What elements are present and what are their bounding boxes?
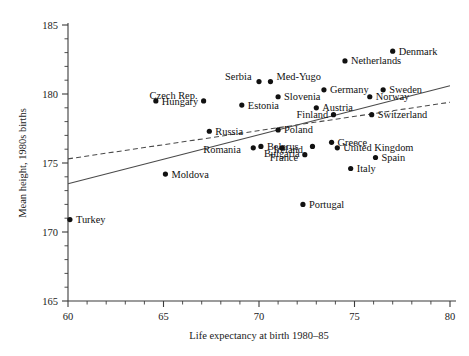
- data-point-label: Switzerland: [378, 109, 428, 120]
- data-point-label: France: [270, 152, 299, 163]
- x-tick-label: 75: [349, 311, 360, 322]
- x-tick-label: 80: [445, 311, 456, 322]
- data-point-marker[interactable]: [300, 202, 305, 207]
- data-point-label: Turkey: [76, 214, 106, 225]
- data-point-label: Netherlands: [351, 55, 401, 66]
- data-point-marker[interactable]: [342, 58, 347, 63]
- data-point-marker[interactable]: [251, 145, 256, 150]
- y-tick-label: 180: [42, 89, 58, 100]
- x-axis-title: Life expectancy at birth 1980–85: [189, 330, 328, 341]
- scatter-chart-figure: 1651701751801856065707580Life expectancy…: [0, 0, 469, 356]
- data-point-marker[interactable]: [369, 112, 374, 117]
- y-tick-label: 170: [42, 227, 58, 238]
- data-point-label: Serbia: [225, 71, 252, 82]
- data-point-label: Norway: [376, 91, 410, 102]
- data-point-marker[interactable]: [348, 166, 353, 171]
- data-point-marker[interactable]: [302, 152, 307, 157]
- y-tick-label: 165: [42, 296, 58, 307]
- data-point-label: Germany: [330, 84, 369, 95]
- data-point-marker[interactable]: [373, 155, 378, 160]
- data-point-marker[interactable]: [331, 112, 336, 117]
- data-point-label: Russia: [215, 126, 243, 137]
- plot-area: 1651701751801856065707580Life expectancy…: [0, 0, 469, 356]
- data-point-label: Spain: [382, 152, 406, 163]
- data-point-marker[interactable]: [367, 94, 372, 99]
- y-tick-label: 185: [42, 20, 58, 31]
- data-point-marker[interactable]: [276, 127, 281, 132]
- data-point-marker[interactable]: [239, 102, 244, 107]
- data-point-label: Czech Rep.: [150, 90, 198, 101]
- x-tick-label: 70: [254, 311, 265, 322]
- data-point-marker[interactable]: [268, 79, 273, 84]
- data-point-label: Med-Yugo: [276, 71, 320, 82]
- data-point-marker[interactable]: [329, 140, 334, 145]
- data-point-label: Denmark: [399, 46, 438, 57]
- data-point-marker[interactable]: [67, 217, 72, 222]
- data-point-marker[interactable]: [207, 129, 212, 134]
- data-point-marker[interactable]: [258, 144, 263, 149]
- data-point-label: Moldova: [171, 169, 209, 180]
- data-point-marker[interactable]: [310, 144, 315, 149]
- data-point-label: Finland: [296, 109, 329, 120]
- y-axis-title: Mean height, 1980s births: [17, 108, 28, 218]
- data-point-marker[interactable]: [256, 79, 261, 84]
- data-point-label: Slovenia: [284, 91, 321, 102]
- data-point-marker[interactable]: [163, 171, 168, 176]
- x-tick-label: 60: [63, 311, 74, 322]
- data-point-marker[interactable]: [335, 145, 340, 150]
- x-tick-label: 65: [158, 311, 169, 322]
- data-point-label: Poland: [284, 124, 314, 135]
- data-point-marker[interactable]: [276, 94, 281, 99]
- data-point-marker[interactable]: [201, 98, 206, 103]
- y-tick-label: 175: [42, 158, 58, 169]
- data-point-label: Romania: [203, 144, 241, 155]
- data-point-label: Estonia: [248, 100, 280, 111]
- data-point-label: Italy: [357, 163, 377, 174]
- data-point-label: Portugal: [309, 199, 344, 210]
- data-point-marker[interactable]: [390, 49, 395, 54]
- data-point-marker[interactable]: [321, 87, 326, 92]
